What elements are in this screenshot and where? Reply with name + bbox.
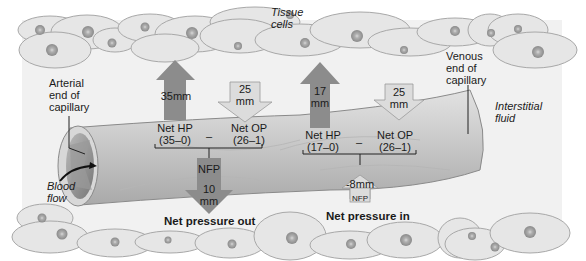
venous-end-label: Venous end of capillary [446,50,486,86]
venous-net-hp: Net HP (17–0) [300,129,346,153]
tissue-cells-label: Tissue cells [271,6,303,30]
arterial-net-op: Net OP (26–1) [226,122,272,146]
capillary-filtration-diagram: Tissue cells Arterial end of capillary V… [0,0,586,261]
blood-flow-label: Blood flow [47,180,75,204]
venous-hp-value: 17 mm [305,85,335,109]
arterial-net-hp: Net HP (35–0) [152,122,198,146]
capillary [58,90,483,206]
tissue-cells-bottom [12,204,570,260]
venous-minus: – [354,136,364,148]
venous-net-op: Net OP (26–1) [372,129,418,153]
net-pressure-out-label: Net pressure out [164,215,255,227]
arterial-nfp-label: NFP [196,163,222,175]
arterial-op-value: 25 mm [225,83,265,107]
arterial-minus: – [204,130,214,142]
diagram-artwork [0,0,586,261]
interstitial-fluid-label: Interstitial fluid [495,100,542,124]
arterial-end-label: Arterial end of capillary [49,77,89,113]
arterial-hp-value: 35mm [158,90,194,102]
venous-op-value: 25 mm [380,86,418,110]
arterial-nfp-value: 10 mm [196,183,222,207]
venous-nfp-value: -8mm [342,178,378,190]
net-pressure-in-label: Net pressure in [326,210,410,222]
venous-nfp-label: NFP [350,193,370,205]
